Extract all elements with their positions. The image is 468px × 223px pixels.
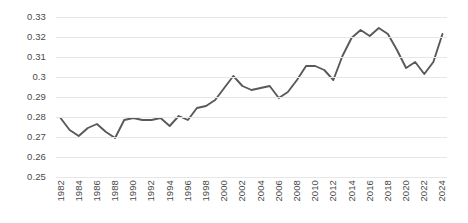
x-axis-tick-label: 1998 (201, 180, 211, 202)
x-axis-tick-label: 1992 (146, 180, 156, 202)
gridline (56, 57, 447, 58)
y-axis: 0.330.320.310.30.290.280.270.260.25 (0, 0, 52, 223)
x-axis-tick-label: 2006 (274, 180, 284, 202)
gridline (56, 17, 447, 18)
y-axis-tick-label: 0.28 (27, 112, 46, 122)
x-axis-tick-label: 2010 (310, 180, 320, 202)
x-axis-tick-label: 2012 (328, 180, 338, 202)
gridline (56, 117, 447, 118)
x-axis-tick-label: 2014 (347, 180, 357, 202)
y-axis-tick-label: 0.32 (27, 32, 46, 42)
x-axis-tick-label: 2000 (219, 180, 229, 202)
x-axis-tick-label: 2004 (256, 180, 266, 202)
plot-area (56, 17, 447, 177)
x-axis-tick-label: 2008 (292, 180, 302, 202)
x-axis-tick-label: 2018 (383, 180, 393, 202)
x-axis-tick-label: 2020 (401, 180, 411, 202)
line-chart: 0.330.320.310.30.290.280.270.260.25 1982… (0, 0, 468, 223)
y-axis-tick-label: 0.27 (27, 132, 46, 142)
x-axis-tick-label: 1988 (110, 180, 120, 202)
x-axis-tick-label: 2002 (237, 180, 247, 202)
y-axis-tick-label: 0.25 (27, 172, 46, 182)
gridline (56, 37, 447, 38)
x-axis-tick-label: 2022 (419, 180, 429, 202)
x-axis-tick-label: 1986 (92, 180, 102, 202)
gridline (56, 77, 447, 78)
gridline (56, 97, 447, 98)
x-axis-tick-label: 1982 (56, 180, 66, 202)
gridline (56, 157, 447, 158)
x-axis-tick-label: 2024 (437, 180, 447, 202)
x-axis-tick-label: 2016 (365, 180, 375, 202)
x-axis-tick-label: 1990 (128, 180, 138, 202)
y-axis-tick-label: 0.31 (27, 52, 46, 62)
gridline (56, 177, 447, 178)
y-axis-tick-label: 0.29 (27, 92, 46, 102)
x-axis-tick-label: 1996 (183, 180, 193, 202)
x-axis-tick-label: 1984 (74, 180, 84, 202)
y-axis-tick-label: 0.33 (27, 12, 46, 22)
gridline (56, 137, 447, 138)
x-axis-tick-label: 1994 (165, 180, 175, 202)
x-axis: 1982198419861988199019921994199619982000… (56, 180, 447, 223)
y-axis-tick-label: 0.26 (27, 152, 46, 162)
y-axis-tick-label: 0.3 (32, 72, 46, 82)
